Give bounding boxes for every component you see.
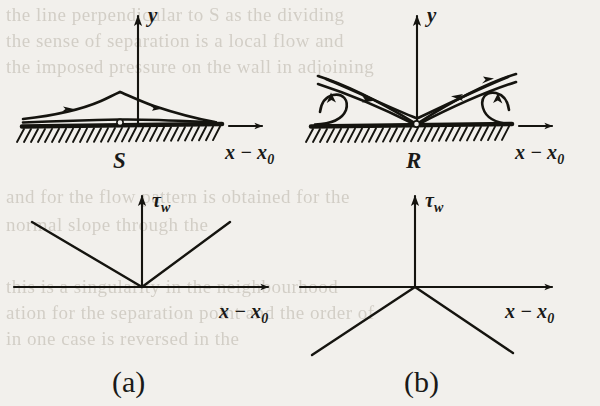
wall-hatching	[17, 127, 220, 143]
separation-point-marker	[117, 119, 123, 125]
panel-caption-b: (b)	[404, 365, 439, 399]
svg-text:x − x0: x − x0	[224, 141, 274, 167]
svg-text:x − x0: x − x0	[514, 141, 564, 167]
shear-curve-a	[32, 222, 230, 287]
x-axis-label-text: x − x	[514, 141, 557, 163]
svg-text:x − x0: x − x0	[218, 300, 268, 326]
shear-curve-b	[312, 287, 513, 355]
panel-bottom-right: τw x − x0 (b)	[300, 189, 554, 399]
x-axis-label-subscript: 0	[547, 311, 554, 326]
svg-text:τw: τw	[425, 189, 444, 215]
x-axis-label-separation: x − x0	[224, 141, 274, 167]
figure-svg: y	[0, 0, 600, 406]
x-axis-label-subscript: 0	[557, 152, 564, 167]
x-axis-label-subscript: 0	[267, 152, 274, 167]
y-axis-label: y	[424, 3, 437, 27]
x-axis-label-b: x − x0	[504, 300, 554, 326]
svg-text:x − x0: x − x0	[504, 300, 554, 326]
reattachment-point-marker	[413, 121, 419, 127]
tau-axis-label-a: τw	[152, 189, 171, 215]
x-axis-label-text: x − x	[504, 300, 547, 322]
x-axis-label-text: x − x	[218, 300, 261, 322]
wall-hatching	[306, 126, 509, 142]
panel-bottom-left: τw x − x0 (a)	[14, 189, 268, 399]
x-axis-label-a: x − x0	[218, 300, 268, 326]
reattachment-point-label: R	[405, 148, 421, 173]
figure-root: the line perpendicular to S as the divid…	[0, 0, 600, 406]
panel-top-right: y	[306, 3, 564, 173]
panel-top-left: y	[17, 3, 274, 173]
tau-subscript: w	[434, 200, 444, 215]
svg-text:τw: τw	[152, 189, 171, 215]
tau-axis-label-b: τw	[425, 189, 444, 215]
tau-subscript: w	[161, 200, 171, 215]
separation-point-label: S	[113, 148, 126, 173]
y-axis-label: y	[145, 3, 158, 27]
x-axis-label-reattachment: x − x0	[514, 141, 564, 167]
x-axis-label-subscript: 0	[261, 311, 268, 326]
dividing-streamline-separation	[23, 92, 216, 123]
panel-caption-a: (a)	[112, 365, 145, 399]
x-axis-label-text: x − x	[224, 141, 267, 163]
